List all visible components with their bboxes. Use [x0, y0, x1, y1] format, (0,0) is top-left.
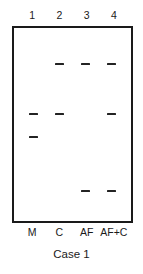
gel-band-lane2-row1 — [55, 63, 64, 65]
gel-band-lane1-row2 — [29, 113, 38, 115]
gel-box — [12, 26, 133, 223]
gel-lane-area — [14, 28, 131, 221]
lane-sample-label-4: AF+C — [97, 225, 131, 239]
gel-band-lane3-row1 — [81, 63, 90, 65]
lane-number-3: 3 — [77, 8, 97, 22]
lane-number-row: 1234 — [12, 8, 134, 24]
gel-band-lane1-row3 — [29, 136, 38, 138]
gel-band-lane3-row4 — [81, 190, 90, 192]
figure-caption: Case 1 — [0, 247, 143, 262]
gel-electrophoresis-figure: 1234 MCAFAF+C Case 1 — [0, 0, 143, 274]
gel-band-lane4-row2 — [107, 113, 116, 115]
gel-band-lane4-row1 — [107, 63, 116, 65]
lane-number-1: 1 — [22, 8, 42, 22]
lane-number-2: 2 — [49, 8, 69, 22]
gel-band-lane4-row4 — [107, 190, 116, 192]
lane-sample-label-row: MCAFAF+C — [12, 225, 134, 241]
lane-number-4: 4 — [104, 8, 124, 22]
gel-band-lane2-row2 — [55, 113, 64, 115]
